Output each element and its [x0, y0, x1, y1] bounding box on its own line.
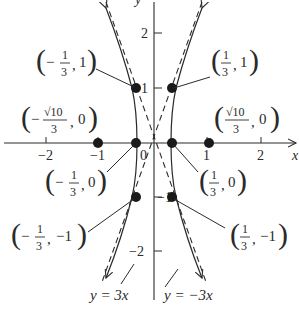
svg-text:3: 3 [233, 122, 239, 136]
svg-text:3: 3 [51, 122, 57, 136]
label-neg-sqrt10-0: ( − √10 3 , 0 ) [21, 100, 98, 136]
y-tick-label: 1 [141, 81, 148, 96]
svg-text:1: 1 [71, 168, 77, 182]
x-axis-label: x [291, 148, 299, 163]
svg-text:3: 3 [241, 239, 247, 253]
svg-text:,: , [221, 177, 225, 193]
label-third-neg1: ( 1 3 , −1 ) [230, 217, 288, 253]
svg-text:0: 0 [78, 111, 86, 127]
point-third-neg1 [167, 192, 177, 202]
svg-text:): ) [97, 163, 107, 197]
point-neg-third-1 [131, 83, 141, 93]
origin-label: 0 [140, 148, 147, 163]
label-neg-third-1: ( − 1 3 , 1 ) [36, 43, 97, 79]
svg-text:1: 1 [240, 54, 248, 70]
svg-text:,: , [251, 114, 255, 130]
svg-text:1: 1 [37, 222, 43, 236]
x-tick-label: 1 [203, 148, 210, 163]
svg-text:1: 1 [211, 168, 217, 182]
svg-text:,: , [47, 231, 51, 247]
svg-text:): ) [87, 43, 97, 77]
x-tick-label: −1 [90, 148, 105, 163]
y-ticks [154, 33, 162, 251]
svg-text:−: − [46, 54, 54, 70]
asymptote-label-right: y = −3x [162, 287, 213, 303]
svg-text:(: ( [230, 217, 240, 251]
svg-text:1: 1 [223, 48, 229, 62]
svg-text:(: ( [21, 100, 31, 134]
svg-text:−: − [31, 111, 39, 127]
svg-text:−: − [55, 174, 63, 190]
point-sqrt10-0 [204, 138, 214, 148]
svg-text:,: , [233, 57, 237, 73]
y-tick-label: 2 [141, 26, 148, 41]
svg-text:1: 1 [79, 54, 87, 70]
svg-text:,: , [252, 231, 256, 247]
label-neg-third-0: ( − 1 3 , 0 ) [45, 163, 107, 199]
x-tick-label: 2 [257, 148, 264, 163]
svg-text:√10: √10 [226, 105, 245, 119]
x-tick-label: −2 [38, 148, 53, 163]
svg-text:3: 3 [222, 65, 228, 79]
svg-text:0: 0 [88, 174, 96, 190]
label-neg-third-neg1: ( − 1 3 , −1 ) [11, 217, 87, 253]
svg-text:,: , [81, 177, 85, 193]
svg-text:): ) [278, 217, 288, 251]
svg-text:3: 3 [36, 239, 42, 253]
svg-text:(: ( [199, 163, 209, 197]
svg-text:0: 0 [228, 174, 236, 190]
y-tick-label: −2 [129, 244, 144, 259]
svg-text:(: ( [211, 43, 221, 77]
svg-text:(: ( [45, 163, 55, 197]
label-third-1: ( 1 3 , 1 ) [211, 43, 259, 79]
svg-text:): ) [77, 217, 87, 251]
label-third-0: ( 1 3 , 0 ) [199, 163, 247, 199]
svg-text:,: , [70, 114, 74, 130]
point-neg-sqrt10-0 [93, 138, 103, 148]
svg-text:√10: √10 [44, 105, 63, 119]
asymptote-y-neg3x [106, 2, 206, 282]
svg-text:): ) [237, 163, 247, 197]
svg-text:): ) [270, 100, 280, 134]
y-axis-label: y [133, 0, 142, 7]
svg-text:3: 3 [210, 185, 216, 199]
svg-text:(: ( [214, 100, 224, 134]
svg-text:(: ( [11, 217, 21, 251]
svg-text:(: ( [36, 43, 46, 77]
svg-text:,: , [72, 57, 76, 73]
svg-text:−1: −1 [56, 228, 72, 244]
svg-text:−: − [21, 228, 29, 244]
svg-text:): ) [249, 43, 259, 77]
svg-text:3: 3 [61, 65, 67, 79]
svg-text:3: 3 [70, 185, 76, 199]
asymptote-y-3x [102, 2, 202, 282]
svg-text:0: 0 [259, 111, 267, 127]
hyperbola-diagram: −2 −1 1 2 x 2 1 −1 −2 y 0 ( [0, 0, 299, 310]
svg-text:1: 1 [62, 48, 68, 62]
svg-text:1: 1 [242, 222, 248, 236]
asymptote-label-left: y = 3x [88, 287, 129, 303]
svg-text:): ) [88, 100, 98, 134]
label-sqrt10-0: ( √10 3 , 0 ) [214, 100, 280, 136]
svg-text:−1: −1 [260, 228, 276, 244]
